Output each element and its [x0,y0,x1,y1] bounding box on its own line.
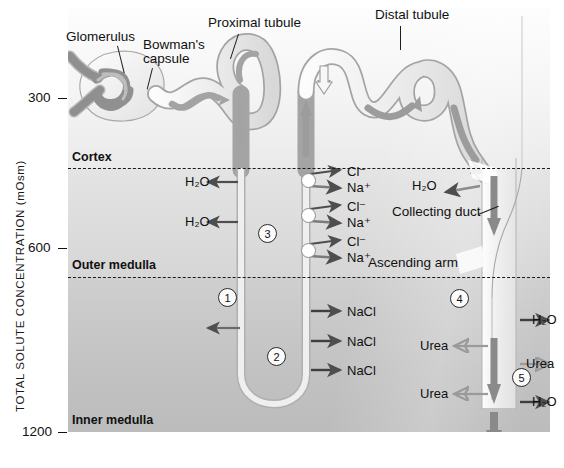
step-marker-1: 1 [218,288,237,307]
solute-label-water-duct-inner: H₂O [532,394,557,409]
solute-label-sodium-1: Na⁺ [347,180,371,195]
y-axis-title: TOTAL SOLUTE CONCENTRATION (mOsm) [14,160,26,412]
label-proximal-tubule: Proximal tubule [208,16,301,31]
step-marker-4: 4 [450,289,469,308]
leader-distal-tubule [400,26,401,50]
y-tickmark-300 [58,98,67,99]
solute-text: Urea [420,386,448,401]
step-number: 4 [456,293,462,305]
solute-label-water-2: H₂O [185,214,210,229]
solute-text: H₂O [185,174,210,189]
solute-text: H₂O [532,312,557,327]
solute-label-water-1: H₂O [185,174,210,189]
solute-text: Cl⁻ [347,234,366,249]
step-marker-5: 5 [512,368,531,387]
solute-label-water-duct-outer: H₂O [532,312,557,327]
solute-text: Cl⁻ [347,164,366,179]
step-marker-3: 3 [258,224,277,243]
solute-label-urea-3: Urea [526,356,554,371]
y-tick-1200: 1200 [22,424,52,439]
y-tick-600: 600 [28,240,51,255]
solute-label-chloride-2: Cl⁻ [347,199,366,214]
solute-text: Na⁺ [347,250,371,265]
cortex-outer-medulla-boundary [68,168,550,169]
transporter-circle-1 [301,173,316,188]
solute-text: NaCl [347,304,376,319]
label-glomerulus: Glomerulus [66,30,135,45]
solute-label-sodium-3: Na⁺ [347,250,371,265]
figure-canvas: TOTAL SOLUTE CONCENTRATION (mOsm) 300 60… [0,0,564,468]
solute-label-chloride-3: Cl⁻ [347,234,366,249]
transporter-circle-2 [301,208,316,223]
solute-label-urea-2: Urea [420,386,448,401]
step-number: 3 [264,228,270,240]
solute-text: Na⁺ [347,180,371,195]
solute-text: NaCl [347,334,376,349]
solute-label-nacl-3: NaCl [347,363,376,378]
label-collecting-duct: Collecting duct [392,205,481,220]
solute-text: Cl⁻ [347,199,366,214]
solute-text: H₂O [185,214,210,229]
zone-label-cortex: Cortex [72,150,112,164]
label-bowmans-capsule-line2: capsule [143,52,190,67]
step-number: 5 [518,372,524,384]
kidney-zone-plot [68,8,550,432]
solute-text: NaCl [347,363,376,378]
transporter-circle-3 [301,243,316,258]
solute-text: Urea [526,356,554,371]
solute-label-water-duct-cortex: H₂O [412,178,437,193]
solute-label-sodium-2: Na⁺ [347,215,371,230]
solute-label-nacl-2: NaCl [347,334,376,349]
y-tick-300: 300 [28,90,51,105]
solute-text: H₂O [412,178,437,193]
label-ascending-arm: Ascending arm [368,256,458,271]
step-number: 1 [224,292,230,304]
zone-label-inner-medulla: Inner medulla [72,413,153,427]
solute-label-urea-1: Urea [420,338,448,353]
label-distal-tubule: Distal tubule [375,8,449,23]
step-number: 2 [273,351,279,363]
outer-inner-medulla-boundary [68,277,550,278]
solute-label-nacl-1: NaCl [347,304,376,319]
solute-text: Na⁺ [347,215,371,230]
y-tickmark-600 [58,248,67,249]
solute-text: H₂O [532,394,557,409]
solute-label-chloride-1: Cl⁻ [347,164,366,179]
zone-label-outer-medulla: Outer medulla [72,258,156,272]
solute-text: Urea [420,338,448,353]
step-marker-2: 2 [267,347,286,366]
y-tickmark-1200 [58,432,67,433]
